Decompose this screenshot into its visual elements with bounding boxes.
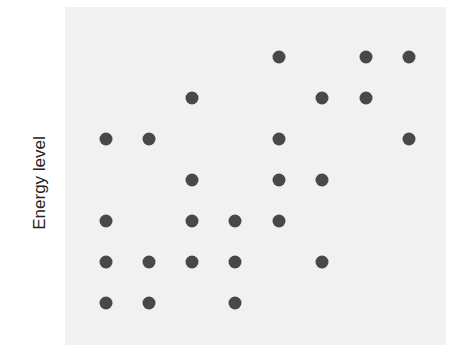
data-point: [316, 92, 329, 105]
data-point: [360, 92, 373, 105]
data-point: [316, 174, 329, 187]
data-point: [100, 256, 113, 269]
data-point: [316, 256, 329, 269]
data-point: [229, 215, 242, 228]
data-point: [100, 133, 113, 146]
data-point: [273, 133, 286, 146]
plot-area: [65, 7, 446, 345]
data-point: [229, 297, 242, 310]
data-point: [186, 215, 199, 228]
data-point: [403, 133, 416, 146]
y-axis-label: Energy level: [30, 136, 50, 230]
data-point: [273, 215, 286, 228]
data-point: [186, 256, 199, 269]
data-point: [100, 297, 113, 310]
data-point: [360, 51, 373, 64]
data-point: [143, 297, 156, 310]
data-point: [143, 256, 156, 269]
data-point: [403, 51, 416, 64]
data-point: [229, 256, 242, 269]
data-point: [273, 51, 286, 64]
data-point: [186, 92, 199, 105]
data-point: [273, 174, 286, 187]
data-point: [100, 215, 113, 228]
data-point: [186, 174, 199, 187]
data-point: [143, 133, 156, 146]
